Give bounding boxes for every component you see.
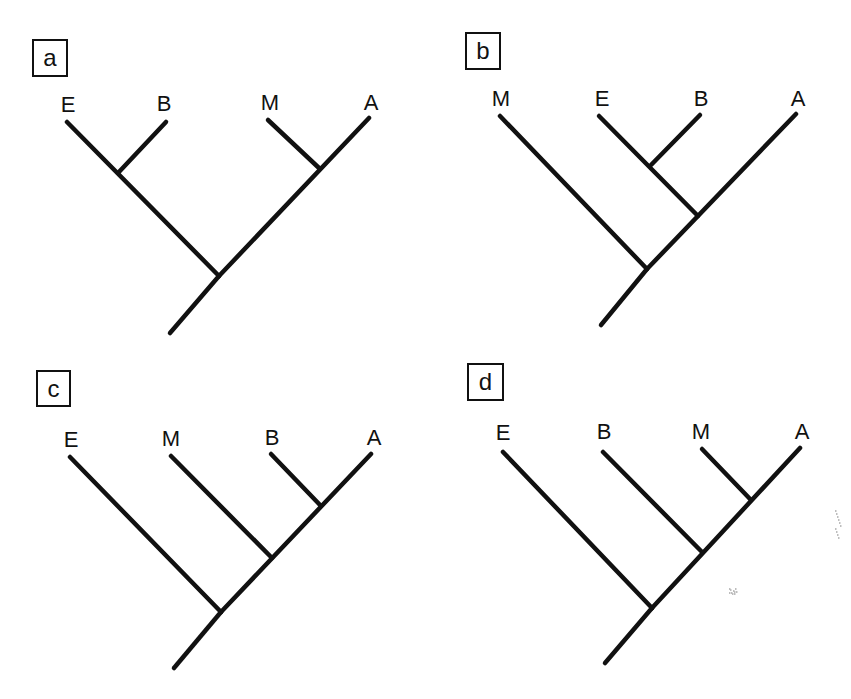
panel-label: a [43, 44, 57, 71]
leaf-label-m: M [692, 419, 710, 444]
scan-speck [837, 516, 839, 518]
phylogeny-figure: aEBMAbMEBAcEMBAdEBMA [0, 0, 851, 699]
background [0, 0, 851, 699]
scan-speck [735, 588, 737, 590]
leaf-label-e: E [64, 427, 79, 452]
scan-speck [838, 519, 840, 521]
scan-speck [836, 531, 838, 533]
scan-speck [835, 510, 837, 512]
panel-label: c [48, 375, 60, 402]
scan-speck [837, 534, 839, 536]
leaf-label-b: B [597, 419, 612, 444]
leaf-label-e: E [61, 92, 76, 117]
leaf-label-b: B [157, 91, 172, 116]
scan-speck [730, 589, 732, 591]
scan-speck [734, 591, 736, 593]
leaf-label-a: A [364, 90, 379, 115]
leaf-label-e: E [595, 86, 610, 111]
scan-speck [839, 522, 841, 524]
scan-speck [734, 593, 736, 595]
leaf-label-m: M [492, 86, 510, 111]
scan-speck [836, 513, 838, 515]
leaf-label-e: E [496, 420, 511, 445]
leaf-label-m: M [162, 426, 180, 451]
leaf-label-a: A [795, 419, 810, 444]
leaf-label-a: A [791, 86, 806, 111]
leaf-label-m: M [261, 90, 279, 115]
leaf-label-b: B [265, 425, 280, 450]
scan-speck [732, 593, 734, 595]
scan-speck [840, 525, 842, 527]
scan-speck [835, 528, 837, 530]
scan-speck [729, 592, 731, 594]
leaf-label-b: B [694, 86, 709, 111]
scan-speck [838, 537, 840, 539]
panel-label: b [476, 37, 489, 64]
leaf-label-a: A [367, 425, 382, 450]
panel-label: d [479, 368, 492, 395]
scan-speck [736, 591, 738, 593]
